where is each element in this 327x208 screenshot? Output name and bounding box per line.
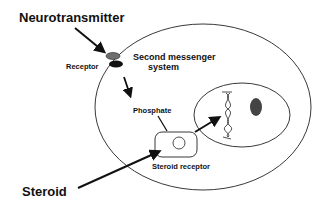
receptor-bottom-icon: [109, 61, 123, 68]
nucleus: [194, 83, 290, 147]
signaling-diagram: Neurotransmitter Receptor Second messeng…: [0, 0, 327, 208]
label-second-messenger-line1: Second messenger: [133, 52, 216, 62]
diagram-graphics: [0, 0, 327, 208]
nucleolus: [250, 98, 262, 116]
steroid-arrow: [78, 152, 158, 188]
receptor-top-icon: [106, 53, 120, 60]
second-messenger-arrow: [124, 77, 130, 95]
steroid-receptor-core: [173, 137, 185, 149]
dna-helix-icon: [222, 92, 232, 139]
label-neurotransmitter: Neurotransmitter: [19, 10, 124, 25]
label-steroid-receptor: Steroid receptor: [152, 162, 210, 171]
label-receptor: Receptor: [66, 62, 99, 71]
receptor-to-dna-arrow: [195, 118, 218, 132]
neurotransmitter-arrow: [75, 28, 103, 51]
label-phosphate: Phosphate: [133, 106, 171, 115]
label-second-messenger-line2: system: [148, 62, 179, 72]
label-steroid: Steroid: [22, 184, 67, 199]
phosphate-link: [158, 116, 167, 131]
